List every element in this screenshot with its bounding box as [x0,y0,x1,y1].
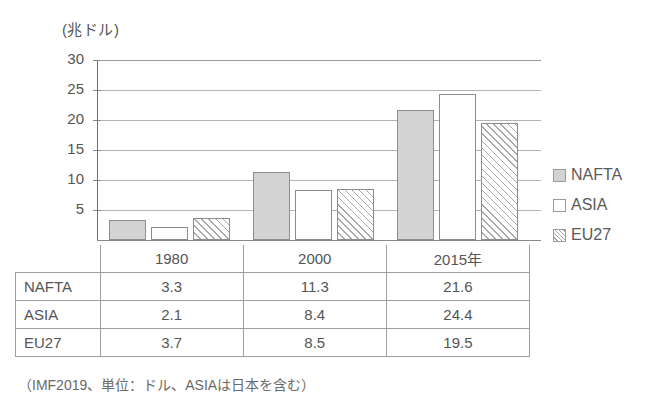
bar-asia-2015年 [439,94,476,240]
table-col-header-2015年: 2015年 [386,245,529,273]
y-axis-line [97,60,98,240]
table-row: ASIA2.18.424.4 [16,301,530,329]
legend-swatch-asia-icon [553,199,566,212]
y-tick-label-20: 20 [44,110,84,127]
y-tick-label-15: 15 [44,140,84,157]
legend-label-asia: ASIA [571,196,607,214]
footnote-text: （IMF2019、単位：ドル、ASIAは日本を含む） [18,374,315,394]
legend-item-asia: ASIA [553,190,648,220]
legend-label-nafta: NAFTA [571,166,622,184]
table-row: NAFTA3.311.321.6 [16,273,530,301]
table-cell-asia-1980: 2.1 [100,301,243,329]
data-table: 198020002015年 NAFTA3.311.321.6ASIA2.18.4… [15,245,530,357]
table-cell-asia-2015年: 24.4 [386,301,529,329]
table-cell-nafta-2000: 11.3 [243,273,386,301]
table-row-header-nafta: NAFTA [16,273,101,301]
bar-eu27-2000 [337,189,374,240]
chart-legend: NAFTAASIAEU27 [553,160,648,250]
y-tick-label-5: 5 [44,200,84,217]
legend-label-eu27: EU27 [571,226,611,244]
table-row-header-eu27: EU27 [16,329,101,357]
y-tick-label-10: 10 [44,170,84,187]
table-cell-nafta-1980: 3.3 [100,273,243,301]
legend-swatch-eu27-icon [553,229,566,242]
table-row-header-asia: ASIA [16,301,101,329]
bar-nafta-1980 [109,220,146,240]
table-row: EU273.78.519.5 [16,329,530,357]
plot-area [97,60,529,240]
table-cell-eu27-2015年: 19.5 [386,329,529,357]
bar-asia-1980 [151,227,188,240]
legend-item-nafta: NAFTA [553,160,648,190]
table-cell-eu27-2000: 8.5 [243,329,386,357]
table-cell-eu27-1980: 3.7 [100,329,243,357]
table-header-row: 198020002015年 [16,245,530,273]
y-axis-unit-label: (兆ドル) [62,18,120,39]
table-body: NAFTA3.311.321.6ASIA2.18.424.4EU273.78.5… [16,273,530,357]
table-cell-asia-2000: 8.4 [243,301,386,329]
bar-asia-2000 [295,190,332,240]
table-corner-cell [16,245,101,273]
legend-swatch-nafta-icon [553,169,566,182]
table-cell-nafta-2015年: 21.6 [386,273,529,301]
bar-eu27-2015年 [481,123,518,240]
x-axis-baseline [97,240,541,241]
table-col-header-1980: 1980 [100,245,243,273]
y-tick-label-25: 25 [44,80,84,97]
table-col-header-2000: 2000 [243,245,386,273]
legend-item-eu27: EU27 [553,220,648,250]
bar-eu27-1980 [193,218,230,240]
y-tick-label-30: 30 [44,50,84,67]
bar-nafta-2000 [253,172,290,240]
bar-nafta-2015年 [397,110,434,240]
